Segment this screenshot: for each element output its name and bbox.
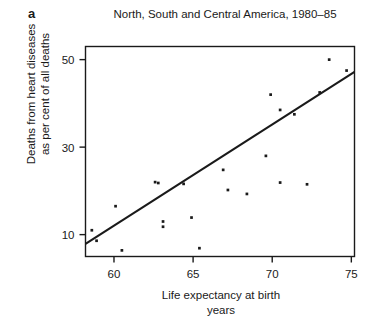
data-point: [318, 91, 321, 94]
data-point: [227, 189, 230, 192]
x-tick-label: 60: [108, 268, 121, 280]
data-point: [121, 249, 124, 252]
y-axis-ticks: 103050: [62, 54, 86, 241]
data-point: [279, 109, 282, 112]
data-point: [190, 216, 193, 219]
data-point: [114, 205, 117, 208]
x-tick-label: 70: [266, 268, 279, 280]
y-tick-label: 30: [62, 142, 75, 154]
plot-area: 60657075 103050: [0, 0, 377, 332]
y-tick-label: 50: [62, 54, 75, 66]
data-point: [222, 169, 225, 172]
x-tick-label: 75: [345, 268, 358, 280]
x-tick-label: 65: [187, 268, 200, 280]
x-axis-ticks: 60657075: [108, 257, 358, 280]
data-point: [95, 239, 98, 242]
data-point: [162, 225, 165, 228]
data-point: [306, 183, 309, 186]
figure-scatter-plot: a North, South and Central America, 1980…: [0, 0, 377, 332]
data-point: [293, 113, 296, 116]
y-tick-label: 10: [62, 229, 75, 241]
data-point: [154, 181, 157, 184]
data-point: [328, 58, 331, 61]
data-point: [269, 93, 272, 96]
data-point: [198, 247, 201, 250]
data-point: [279, 181, 282, 184]
trend-line: [86, 72, 355, 244]
data-point: [90, 229, 93, 232]
data-point: [157, 182, 160, 185]
data-point: [162, 220, 165, 223]
data-points: [90, 58, 347, 251]
data-point: [265, 155, 268, 158]
data-point: [246, 193, 249, 196]
plot-frame: [86, 47, 355, 257]
data-point: [345, 69, 348, 72]
data-point: [182, 183, 185, 186]
